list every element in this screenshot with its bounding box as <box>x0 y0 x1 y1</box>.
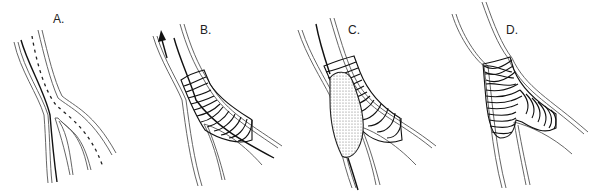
panel-b <box>153 24 282 186</box>
balloon <box>330 72 363 157</box>
bifurcation-stenting-figure: A. B. C. D. <box>0 0 595 195</box>
panel-d <box>452 2 588 188</box>
panel-c <box>298 18 436 190</box>
arrow-up-icon <box>158 30 166 42</box>
panel-a <box>14 30 116 183</box>
diagram-canvas <box>0 0 595 195</box>
